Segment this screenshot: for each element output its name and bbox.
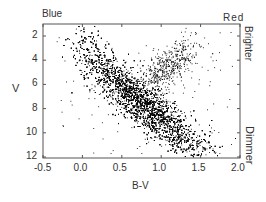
plot-frame: [43, 24, 240, 158]
brighter-annotation: Brighter: [243, 26, 254, 61]
y-tick-label: 12: [26, 150, 37, 161]
y-tick-label: 2: [32, 29, 38, 40]
blue-annotation: Blue: [42, 8, 62, 19]
x-tick-label: 2.0: [231, 162, 245, 173]
dimmer-annotation: Dimmer: [244, 126, 256, 165]
x-tick-label: -0.5: [34, 162, 51, 173]
x-axis-ticks: [43, 24, 240, 158]
data-points: [57, 26, 236, 157]
x-tick-label: 0.0: [73, 162, 87, 173]
x-tick-label: 1.0: [152, 162, 166, 173]
x-tick-label: 1.5: [192, 162, 206, 173]
y-tick-label: 6: [32, 77, 38, 88]
y-tick-label: 8: [32, 102, 38, 113]
y-axis-label: V: [12, 82, 19, 94]
red-annotation: Red: [223, 12, 244, 23]
x-axis-label: B-V: [132, 180, 149, 191]
x-tick-label: 0.5: [113, 162, 127, 173]
y-tick-label: 4: [32, 53, 38, 64]
y-tick-label: 10: [26, 126, 37, 137]
